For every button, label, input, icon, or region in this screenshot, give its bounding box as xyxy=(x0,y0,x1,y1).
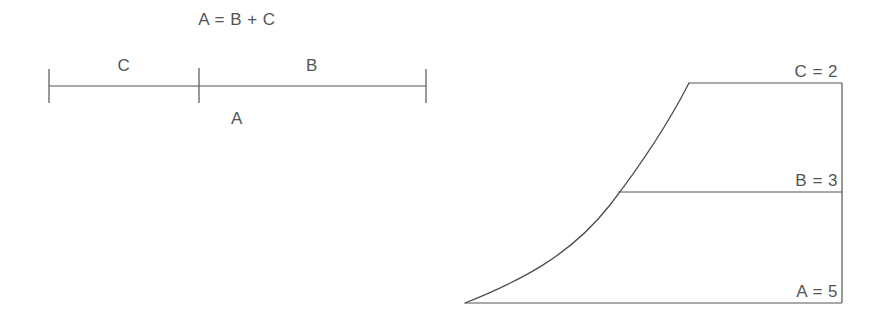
segment-label-c: C xyxy=(118,57,131,74)
segment-label-b: B xyxy=(306,57,318,74)
segment-label-a: A xyxy=(231,110,243,127)
figure-canvas: A = B + C C B A C = 2 B = 3 A = 5 xyxy=(0,0,883,330)
level-label-a: A = 5 xyxy=(796,283,838,300)
level-label-c: C = 2 xyxy=(794,63,838,80)
level-label-b: B = 3 xyxy=(795,172,838,189)
equation-label: A = B + C xyxy=(198,11,275,28)
left-panel-lines xyxy=(0,0,883,330)
rising-curve xyxy=(465,83,689,303)
